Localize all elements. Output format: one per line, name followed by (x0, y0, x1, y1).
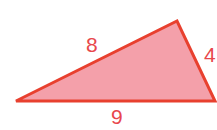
side-label-9: 9 (111, 106, 123, 127)
triangle (16, 21, 215, 101)
side-label-4: 4 (204, 44, 216, 65)
triangle-diagram (0, 0, 217, 130)
side-label-8: 8 (86, 34, 98, 55)
